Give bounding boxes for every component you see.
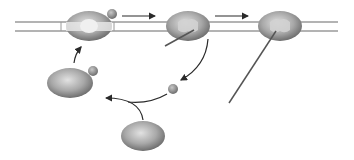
arrow-binding <box>106 98 143 120</box>
factor-sphere <box>88 66 98 76</box>
free-ribosome <box>121 121 165 151</box>
ribosome-elongating <box>165 11 210 46</box>
ribosome-initiating <box>66 9 117 41</box>
protein-chain-long <box>229 31 276 103</box>
arrow-up <box>74 47 81 63</box>
initiation-factor-sphere <box>107 9 117 19</box>
free-ribosome-with-factor <box>47 66 98 98</box>
factor-path <box>128 94 167 102</box>
released-factor <box>168 84 178 94</box>
ribosome-cycle-diagram <box>0 0 354 160</box>
arrow-release <box>181 39 208 80</box>
ribosome-terminating <box>229 11 302 103</box>
